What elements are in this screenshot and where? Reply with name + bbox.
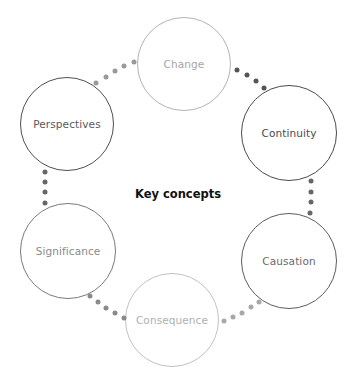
- node-label-perspectives: Perspectives: [33, 118, 100, 130]
- node-change: Change: [137, 17, 231, 111]
- connector-dot: [231, 315, 236, 320]
- node-continuity: Continuity: [241, 85, 337, 181]
- connector-dot: [308, 211, 313, 216]
- connector-dot: [94, 81, 99, 86]
- connector-dot: [245, 73, 250, 78]
- connector-dot: [43, 180, 48, 185]
- connector-dot: [222, 319, 227, 324]
- connector-dot: [104, 75, 109, 80]
- connector-dot: [113, 69, 118, 74]
- connector-dot: [113, 311, 118, 316]
- connector-dot: [132, 60, 137, 65]
- connector-dot: [254, 79, 259, 84]
- connector-dot: [104, 306, 109, 311]
- connector-dot: [43, 190, 48, 195]
- connector-dot: [262, 86, 267, 91]
- connector-dot: [235, 68, 240, 73]
- connector-dot: [122, 64, 127, 69]
- node-consequence: Consequence: [125, 273, 219, 367]
- node-label-continuity: Continuity: [261, 127, 316, 139]
- connector-dot: [257, 300, 262, 305]
- connector-dot: [240, 311, 245, 316]
- connector-dot: [43, 201, 48, 206]
- connector-dot: [309, 200, 314, 205]
- diagram-title: Key concepts: [135, 187, 221, 201]
- key-concepts-diagram: Key concepts Change Continuity Causation…: [0, 0, 352, 383]
- node-label-consequence: Consequence: [136, 314, 208, 326]
- node-perspectives: Perspectives: [20, 77, 114, 171]
- node-label-change: Change: [164, 58, 205, 70]
- connector-dot: [249, 305, 254, 310]
- connector-dot: [309, 179, 314, 184]
- connector-dot: [122, 316, 127, 321]
- node-label-significance: Significance: [36, 245, 101, 257]
- connector-dot: [96, 300, 101, 305]
- node-label-causation: Causation: [262, 255, 315, 267]
- node-significance: Significance: [20, 203, 116, 299]
- connector-dot: [88, 294, 93, 299]
- connector-dot: [43, 170, 48, 175]
- node-causation: Causation: [241, 213, 337, 309]
- connector-dot: [309, 190, 314, 195]
